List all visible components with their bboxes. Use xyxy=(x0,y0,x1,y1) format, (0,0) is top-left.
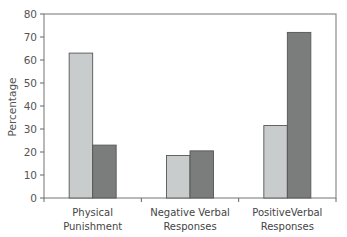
y-tick-label: 70 xyxy=(24,31,37,43)
bar-dark xyxy=(190,151,214,198)
x-category-label: Responses xyxy=(163,221,216,232)
x-category-label: Negative Verbal xyxy=(150,207,230,218)
bar-light xyxy=(167,155,191,198)
bar-chart: 01020304050607080 PhysicalPunishmentNega… xyxy=(0,0,347,237)
y-tick-label: 0 xyxy=(30,192,37,204)
y-tick-label: 40 xyxy=(24,100,37,112)
bar-dark xyxy=(287,32,311,198)
x-category-label: Punishment xyxy=(63,221,122,232)
x-category-label: Physical xyxy=(72,207,113,218)
y-tick-label: 80 xyxy=(24,8,37,20)
bars xyxy=(69,32,311,198)
y-tick-label: 30 xyxy=(24,123,37,135)
bar-dark xyxy=(93,145,117,198)
bar-light xyxy=(69,53,93,198)
bar-light xyxy=(264,126,288,198)
x-axis: PhysicalPunishmentNegative VerbalRespons… xyxy=(44,198,336,232)
y-axis-title: Percentage xyxy=(6,77,18,136)
y-tick-label: 50 xyxy=(24,77,37,89)
y-tick-label: 20 xyxy=(24,146,37,158)
y-tick-label: 10 xyxy=(24,169,37,181)
x-category-label: Responses xyxy=(261,221,314,232)
y-tick-label: 60 xyxy=(24,54,37,66)
x-category-label: PositiveVerbal xyxy=(252,207,322,218)
y-axis: 01020304050607080 xyxy=(24,8,44,204)
